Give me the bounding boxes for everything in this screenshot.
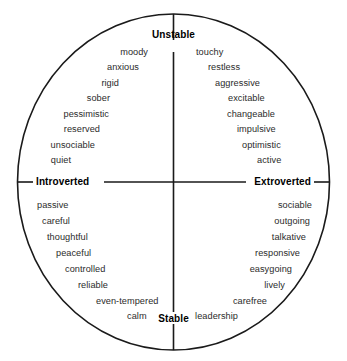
trait-label: unsociable (51, 140, 95, 150)
trait-label: restless (208, 62, 240, 72)
trait-label: quiet (51, 155, 71, 165)
trait-label: carefree (233, 296, 267, 306)
trait-label: optimistic (242, 140, 281, 150)
trait-label: touchy (196, 47, 223, 57)
trait-label: lively (264, 280, 285, 290)
trait-label: pessimistic (64, 109, 109, 119)
trait-label: aggressive (215, 78, 260, 88)
trait-label: talkative (272, 232, 306, 242)
trait-label: thoughtful (47, 232, 88, 242)
trait-label: reliable (78, 280, 108, 290)
trait-label: leadership (195, 311, 238, 321)
trait-label: rigid (101, 78, 119, 88)
trait-label: careful (42, 216, 70, 226)
pole-label-unstable: Unstable (152, 29, 195, 40)
trait-label: controlled (65, 264, 105, 274)
trait-label: peaceful (56, 248, 91, 258)
trait-label: active (257, 155, 281, 165)
trait-label: even-tempered (96, 296, 158, 306)
trait-label: outgoing (274, 216, 310, 226)
trait-label: responsive (255, 248, 300, 258)
trait-label: impulsive (237, 124, 276, 134)
trait-label: passive (37, 200, 69, 210)
pole-label-stable: Stable (158, 313, 189, 324)
pole-label-extroverted: Extroverted (254, 176, 311, 187)
trait-label: easygoing (250, 264, 292, 274)
trait-label: calm (127, 311, 147, 321)
trait-label: excitable (228, 93, 265, 103)
trait-label: reserved (64, 124, 100, 134)
trait-label: changeable (227, 109, 275, 119)
eysenck-personality-circle: Unstable Stable Introverted Extroverted … (0, 0, 347, 361)
trait-label: moody (120, 47, 148, 57)
trait-label: anxious (107, 62, 139, 72)
pole-label-introverted: Introverted (36, 176, 89, 187)
trait-label: sociable (278, 200, 312, 210)
trait-label: sober (87, 93, 110, 103)
